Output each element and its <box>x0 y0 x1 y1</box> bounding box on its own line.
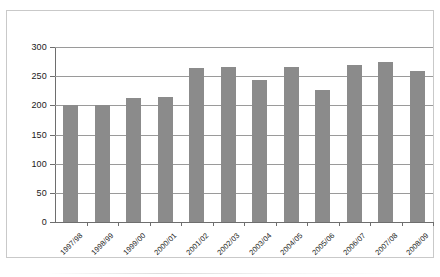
x-tick-label-2000-01: 2000/01 <box>153 231 179 257</box>
scan-artifact <box>47 273 407 274</box>
x-tick-label-2001-02: 2001/02 <box>184 231 210 257</box>
y-tick-label-300: 300 <box>31 42 47 52</box>
bar-2007-08 <box>378 62 393 222</box>
x-tick-label-1999-00: 1999/00 <box>121 231 147 257</box>
gridline-50 <box>55 193 433 194</box>
y-tick-mark-100 <box>50 164 55 165</box>
x-tick-2008-09 <box>433 222 434 226</box>
x-tick-2002-03 <box>244 222 245 226</box>
y-tick-mark-150 <box>50 135 55 136</box>
bar-2000-01 <box>158 97 173 222</box>
y-tick-label-150: 150 <box>31 130 47 140</box>
gridline-250 <box>55 76 433 77</box>
x-tick-label-1997-98: 1997/98 <box>58 231 84 257</box>
x-tick-2004-05 <box>307 222 308 226</box>
bar-2003-04 <box>252 80 267 222</box>
y-tick-label-100: 100 <box>31 159 47 169</box>
x-tick-label-2003-04: 2003/04 <box>247 231 273 257</box>
y-tick-label-250: 250 <box>31 71 47 81</box>
y-tick-mark-200 <box>50 105 55 106</box>
bar-2001-02 <box>189 68 204 222</box>
bar-2005-06 <box>315 90 330 222</box>
bar-1999-00 <box>126 98 141 222</box>
x-tick-2001-02 <box>213 222 214 226</box>
bar-1998-99 <box>95 105 110 222</box>
bar-2002-03 <box>221 67 236 222</box>
bar-2006-07 <box>347 65 362 223</box>
y-tick-mark-50 <box>50 193 55 194</box>
y-tick-label-50: 50 <box>37 188 47 198</box>
x-tick-label-2006-07: 2006/07 <box>342 231 368 257</box>
x-tick-2005-06 <box>339 222 340 226</box>
bar-2008-09 <box>410 71 425 222</box>
y-tick-mark-300 <box>50 47 55 48</box>
x-tick-1999-00 <box>150 222 151 226</box>
x-tick-label-2008-09: 2008/09 <box>405 231 431 257</box>
x-tick-label-2005-06: 2005/06 <box>310 231 336 257</box>
y-axis-tick-labels: 050100150200250300 <box>7 11 47 259</box>
y-tick-mark-0 <box>50 222 55 223</box>
x-tick-label-2002-03: 2002/03 <box>216 231 242 257</box>
y-tick-label-0: 0 <box>42 217 47 227</box>
x-tick-label-1998-99: 1998/99 <box>90 231 116 257</box>
gridline-100 <box>55 164 433 165</box>
gridline-150 <box>55 135 433 136</box>
x-tick-label-2004-05: 2004/05 <box>279 231 305 257</box>
gridline-200 <box>55 105 433 106</box>
x-tick-2007-08 <box>402 222 403 226</box>
y-tick-mark-250 <box>50 76 55 77</box>
x-tick-label-2007-08: 2007/08 <box>373 231 399 257</box>
x-tick-2006-07 <box>370 222 371 226</box>
x-tick-2000-01 <box>181 222 182 226</box>
x-tick-2003-04 <box>276 222 277 226</box>
y-tick-label-200: 200 <box>31 100 47 110</box>
bar-2004-05 <box>284 67 299 222</box>
chart-frame: 050100150200250300 1997/981998/991999/00… <box>6 10 434 258</box>
gridline-300 <box>55 47 433 48</box>
x-tick-1997-98 <box>87 222 88 226</box>
bar-1997-98 <box>63 105 78 222</box>
x-tick-1998-99 <box>118 222 119 226</box>
plot-area: 1997/981998/991999/002000/012001/022002/… <box>55 47 433 222</box>
